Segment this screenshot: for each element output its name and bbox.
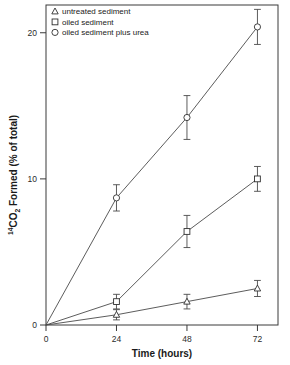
data-series-group xyxy=(46,9,261,325)
data-point-circle-24 xyxy=(113,195,119,201)
legend-item-triangle: untreated sediment xyxy=(52,7,131,16)
legend-label-square: oiled sediment xyxy=(62,18,114,27)
data-point-square-72 xyxy=(255,176,261,182)
x-tick-label-72: 72 xyxy=(253,334,263,344)
series-line-circle xyxy=(46,27,257,325)
x-tick-label-48: 48 xyxy=(182,334,192,344)
axis-ticks xyxy=(40,33,257,331)
legend-marker-square xyxy=(52,19,58,25)
x-tick-label-0: 0 xyxy=(44,334,49,344)
legend-item-square: oiled sediment xyxy=(52,18,114,27)
x-axis-title: Time (hours) xyxy=(132,348,192,359)
plot-frame xyxy=(46,5,278,325)
legend-item-circle: oiled sediment plus urea xyxy=(52,28,149,37)
data-point-circle-48 xyxy=(184,114,190,120)
x-tick-label-24: 24 xyxy=(112,334,122,344)
chart-canvas: 010200244872 untreated sedimentoiled sed… xyxy=(0,0,290,365)
svg-text:14CO2 Formed (% of total): 14CO2 Formed (% of total) xyxy=(7,115,21,235)
data-point-circle-72 xyxy=(254,24,260,30)
data-point-square-48 xyxy=(184,229,190,235)
chart-legend: untreated sedimentoiled sedimentoiled se… xyxy=(52,7,149,37)
series-square xyxy=(46,166,261,325)
y-axis-title: 14CO2 Formed (% of total) xyxy=(7,115,21,235)
series-circle xyxy=(46,9,261,325)
y-tick-label-20: 20 xyxy=(28,28,38,38)
series-line-square xyxy=(46,179,257,325)
legend-marker-circle xyxy=(52,29,58,35)
plot-box xyxy=(46,5,278,325)
data-point-triangle-72 xyxy=(254,285,260,291)
axis-tick-labels: 010200244872 xyxy=(28,28,263,344)
legend-marker-triangle xyxy=(52,8,58,14)
data-point-square-24 xyxy=(114,299,120,305)
series-line-triangle xyxy=(46,288,257,325)
legend-label-triangle: untreated sediment xyxy=(62,7,131,16)
series-triangle xyxy=(46,280,261,325)
y-tick-label-10: 10 xyxy=(28,174,38,184)
legend-label-circle: oiled sediment plus urea xyxy=(62,28,149,37)
y-tick-label-0: 0 xyxy=(32,320,37,330)
figure-container: 010200244872 untreated sedimentoiled sed… xyxy=(0,0,290,365)
